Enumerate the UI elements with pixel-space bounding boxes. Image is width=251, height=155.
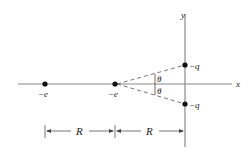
- dashed-line-upper: [117, 65, 185, 84]
- middle-electron-dot: [112, 81, 117, 86]
- left-electron-label: −e: [38, 89, 48, 99]
- x-axis-label: x: [235, 79, 240, 89]
- arrow-head-4: [179, 129, 184, 133]
- arrow-head-1: [46, 129, 51, 133]
- dimension-label-second: R: [145, 125, 153, 137]
- arrow-head-3: [116, 129, 121, 133]
- upper-charge-label: −q: [189, 61, 200, 71]
- arrow-head-2: [109, 129, 114, 133]
- charge-diagram: −e −e −q −q θ θ x y R R: [0, 0, 251, 155]
- upper-charge-dot: [182, 62, 187, 67]
- dimension-label-first: R: [75, 125, 83, 137]
- theta-upper-label: θ: [157, 74, 162, 84]
- y-axis-label: y: [180, 10, 185, 20]
- theta-lower-label: θ: [157, 86, 162, 96]
- dashed-line-lower: [117, 84, 185, 104]
- left-electron-dot: [42, 81, 47, 86]
- lower-charge-dot: [182, 101, 187, 106]
- lower-charge-label: −q: [189, 100, 200, 110]
- middle-electron-label: −e: [108, 89, 118, 99]
